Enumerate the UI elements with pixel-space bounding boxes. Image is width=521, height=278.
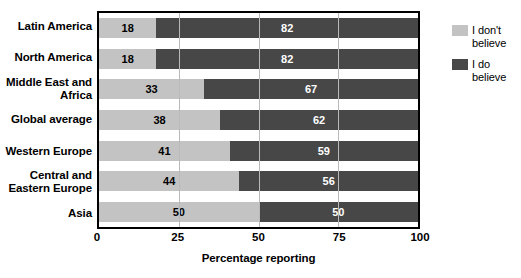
stacked-bar: 3862: [99, 110, 418, 130]
bar-value-label: 67: [305, 83, 317, 95]
bar-value-label: 41: [158, 145, 170, 157]
x-tick-label: 50: [252, 231, 265, 243]
bar-segment-dont-believe: 41: [99, 141, 230, 161]
bar-segment-do-believe: 50: [259, 202, 419, 222]
bar-segment-do-believe: 59: [230, 141, 418, 161]
x-axis-ticks: 0255075100: [97, 231, 420, 247]
bar-row: 5050: [99, 196, 418, 227]
bar-segment-dont-believe: 18: [99, 49, 156, 69]
bar-row: 4159: [99, 135, 418, 166]
bar-segment-dont-believe: 38: [99, 110, 220, 130]
stacked-bar: 4159: [99, 141, 418, 161]
x-tick-label: 75: [333, 231, 346, 243]
bar-segment-dont-believe: 18: [99, 18, 156, 38]
bar-segment-dont-believe: 44: [99, 171, 239, 191]
legend-label: I do believe: [472, 58, 506, 83]
bar-row: 3862: [99, 105, 418, 136]
bar-segment-do-believe: 67: [204, 79, 418, 99]
bar-row: 1882: [99, 13, 418, 44]
category-label: Global average: [0, 104, 93, 135]
stacked-bar: 3367: [99, 79, 418, 99]
stacked-bar-chart: Latin AmericaNorth AmericaMiddle East an…: [0, 0, 521, 278]
stacked-bar: 4456: [99, 171, 418, 191]
bar-value-label: 82: [281, 22, 293, 34]
bar-segment-dont-believe: 33: [99, 79, 204, 99]
x-tick-label: 0: [94, 231, 100, 243]
bar-segment-do-believe: 62: [220, 110, 418, 130]
bar-row: 4456: [99, 166, 418, 197]
bar-value-label: 82: [281, 53, 293, 65]
category-label: North America: [0, 42, 93, 73]
x-tick-label: 100: [410, 231, 429, 243]
bar-value-label: 59: [318, 145, 330, 157]
stacked-bar: 1882: [99, 18, 418, 38]
x-axis-title: Percentage reporting: [97, 252, 420, 264]
stacked-bar: 5050: [99, 202, 418, 222]
category-label: Latin America: [0, 11, 93, 42]
bar-segment-do-believe: 56: [239, 171, 418, 191]
stacked-bar: 1882: [99, 49, 418, 69]
bar-row: 3367: [99, 74, 418, 105]
bar-segment-do-believe: 82: [156, 49, 418, 69]
category-axis: Latin AmericaNorth AmericaMiddle East an…: [0, 11, 93, 229]
bar-value-label: 50: [173, 206, 185, 218]
plot-area: 1882188233673862415944565050: [97, 11, 420, 229]
bar-value-label: 18: [122, 22, 134, 34]
bar-row: 1882: [99, 44, 418, 75]
x-tick-label: 25: [171, 231, 184, 243]
bar-value-label: 38: [153, 114, 165, 126]
bar-value-label: 33: [146, 83, 158, 95]
legend-label: I don't believe: [472, 24, 506, 49]
bar-value-label: 62: [313, 114, 325, 126]
legend-item: I do believe: [452, 58, 521, 83]
bar-segment-dont-believe: 50: [99, 202, 259, 222]
chart-legend: I don't believeI do believe: [452, 24, 521, 93]
bar-value-label: 50: [332, 206, 344, 218]
category-label: Middle East and Africa: [0, 73, 93, 104]
plot-inner: 1882188233673862415944565050: [99, 13, 418, 227]
category-label: Central and Eastern Europe: [0, 167, 93, 198]
bar-value-label: 44: [163, 175, 175, 187]
legend-swatch-light: [452, 25, 468, 36]
bar-value-label: 18: [122, 53, 134, 65]
category-label: Western Europe: [0, 136, 93, 167]
bar-value-label: 56: [323, 175, 335, 187]
legend-swatch-dark: [452, 59, 468, 70]
legend-item: I don't believe: [452, 24, 521, 49]
category-label: Asia: [0, 198, 93, 229]
bar-segment-do-believe: 82: [156, 18, 418, 38]
